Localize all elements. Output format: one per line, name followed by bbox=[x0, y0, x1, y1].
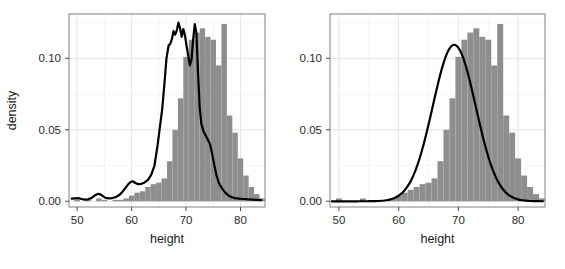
histogram-bar bbox=[509, 133, 515, 202]
y-tick-label: 0.10 bbox=[39, 52, 61, 64]
histogram-bar bbox=[503, 116, 509, 202]
x-tick-label: 70 bbox=[452, 214, 465, 226]
y-tick-label: 0.05 bbox=[39, 124, 61, 136]
histogram-bar bbox=[238, 158, 243, 201]
two-panel-density-figure: 506070800.000.050.10heightdensity 506070… bbox=[0, 0, 565, 269]
histogram-bar bbox=[449, 98, 455, 201]
histogram-bar bbox=[455, 57, 461, 201]
histogram-bar bbox=[414, 187, 420, 201]
histogram-bar bbox=[134, 193, 139, 202]
histogram-bar bbox=[162, 178, 167, 201]
x-tick-label: 80 bbox=[512, 214, 525, 226]
y-axis-title: density bbox=[5, 90, 19, 130]
histogram-bar bbox=[497, 24, 503, 201]
histogram-bar bbox=[408, 190, 414, 201]
histogram-bar bbox=[432, 178, 438, 201]
y-tick-label: 0.00 bbox=[300, 195, 322, 207]
histogram-bar bbox=[515, 158, 521, 201]
x-tick-label: 50 bbox=[333, 214, 346, 226]
x-tick-label: 50 bbox=[71, 214, 84, 226]
histogram-bar bbox=[211, 40, 216, 202]
histogram-bar bbox=[420, 184, 426, 201]
histogram-bar bbox=[118, 200, 123, 201]
histogram-bar bbox=[183, 57, 188, 201]
histogram-bar bbox=[527, 187, 533, 201]
histogram-bar bbox=[96, 198, 101, 201]
y-tick-label: 0.00 bbox=[39, 195, 61, 207]
x-tick-label: 80 bbox=[234, 214, 247, 226]
histogram-bar bbox=[485, 40, 491, 202]
histogram-bar bbox=[156, 183, 161, 202]
histogram-bar bbox=[102, 200, 107, 201]
histogram-bar bbox=[145, 187, 150, 201]
histogram-bar bbox=[227, 116, 232, 202]
histogram-bar bbox=[221, 24, 226, 201]
right-panel-plot: 506070800.000.050.10heightdensity bbox=[282, 0, 565, 269]
histogram-bar bbox=[232, 133, 237, 202]
histogram-bar bbox=[521, 176, 527, 202]
histogram-bar bbox=[178, 98, 183, 201]
histogram-bar bbox=[113, 200, 118, 201]
left-panel-container: 506070800.000.050.10heightdensity bbox=[0, 0, 282, 269]
histogram-bar bbox=[243, 176, 248, 202]
histogram-bar bbox=[426, 183, 432, 202]
x-axis-title: height bbox=[420, 232, 455, 246]
right-panel-container: 506070800.000.050.10heightdensity bbox=[282, 0, 565, 269]
histogram-bar bbox=[140, 191, 145, 201]
histogram-bar bbox=[443, 130, 449, 201]
histogram-bar bbox=[167, 161, 172, 201]
x-tick-label: 60 bbox=[125, 214, 138, 226]
x-tick-label: 70 bbox=[180, 214, 193, 226]
histogram-bar bbox=[129, 196, 134, 202]
histogram-bar bbox=[172, 130, 177, 201]
histogram-bar bbox=[479, 37, 485, 201]
histogram-bar bbox=[467, 33, 473, 202]
histogram-bar bbox=[491, 65, 497, 201]
left-panel-plot: 506070800.000.050.10heightdensity bbox=[0, 0, 282, 269]
y-tick-label: 0.05 bbox=[300, 124, 322, 136]
x-tick-label: 60 bbox=[392, 214, 405, 226]
histogram-bar bbox=[151, 184, 156, 201]
x-axis-title: height bbox=[150, 232, 185, 246]
histogram-bar bbox=[74, 200, 79, 201]
histogram-bar bbox=[123, 198, 128, 201]
histogram-bar bbox=[438, 161, 444, 201]
histogram-bar bbox=[205, 37, 210, 201]
y-tick-label: 0.10 bbox=[300, 52, 322, 64]
